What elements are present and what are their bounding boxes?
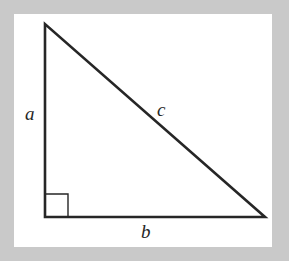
triangle-outline — [45, 24, 265, 217]
side-label-c: c — [157, 100, 165, 119]
side-label-a: a — [25, 104, 35, 123]
side-label-b: b — [141, 222, 151, 241]
figure-root: a b c — [0, 0, 289, 261]
right-angle-marker-icon — [45, 194, 68, 217]
